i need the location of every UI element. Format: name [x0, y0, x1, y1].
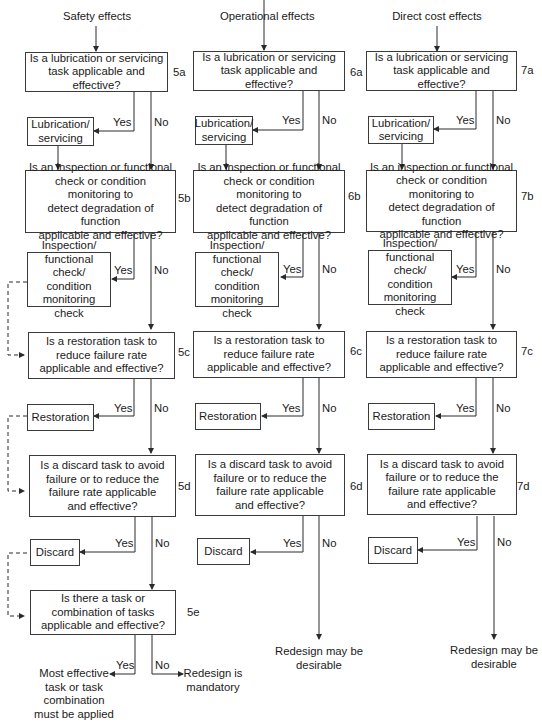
- action-lubrication-box: Lubrication/ servicing: [27, 117, 94, 146]
- question-code-7c: 7c: [521, 345, 533, 357]
- yes-label-7b: Yes: [456, 263, 474, 275]
- column-title-operational: Operational effects: [220, 10, 310, 24]
- no-label-7a: No: [496, 114, 510, 126]
- no-label-5d: No: [155, 537, 169, 549]
- yes-label-7c: Yes: [456, 402, 474, 414]
- question-5a-box: Is a lubrication or servicing task appli…: [25, 52, 168, 92]
- yes-label-6a: Yes: [282, 114, 300, 126]
- yes-label-5b: Yes: [114, 264, 132, 276]
- question-code-7d: 7d: [517, 480, 530, 492]
- outcome-redesign-desirable: Redesign may be desirable: [448, 644, 540, 671]
- action-lubrication-box: Lubrication/ servicing: [195, 116, 253, 145]
- column-title-safety: Safety effects: [60, 10, 134, 24]
- question-code-6a: 6a: [350, 66, 363, 78]
- no-label-6d: No: [322, 537, 336, 549]
- yes-label-7d: Yes: [457, 536, 475, 548]
- question-7d-box: Is a discard task to avoid failure or to…: [367, 454, 517, 515]
- question-code-7b: 7b: [521, 190, 534, 202]
- question-code-7a: 7a: [521, 64, 534, 76]
- yes-label-5d: Yes: [115, 537, 133, 549]
- no-label-6c: No: [322, 402, 336, 414]
- yes-label-5e: Yes: [116, 659, 134, 671]
- column-title-direct-cost: Direct cost effects: [390, 10, 484, 24]
- question-code-5b: 5b: [178, 192, 191, 204]
- question-5e-box: Is there a task or combination of tasks …: [30, 590, 176, 635]
- outcome-redesign-desirable: Redesign may be desirable: [274, 645, 364, 672]
- yes-label-6c: Yes: [282, 402, 300, 414]
- action-discard-box: Discard: [30, 539, 80, 566]
- yes-label-5a: Yes: [113, 116, 131, 128]
- action-restoration-box: Restoration: [27, 404, 94, 431]
- no-label-6a: No: [322, 114, 336, 126]
- action-discard-box: Discard: [368, 537, 418, 564]
- question-code-5a: 5a: [173, 66, 186, 78]
- no-label-7d: No: [497, 536, 511, 548]
- question-code-6d: 6d: [350, 480, 363, 492]
- no-label-7b: No: [496, 263, 510, 275]
- action-restoration-box: Restoration: [368, 403, 435, 430]
- outcome-redesign-mandatory: Redesign is mandatory: [183, 667, 243, 694]
- question-code-5e: 5e: [187, 606, 200, 618]
- yes-label-7a: Yes: [456, 114, 474, 126]
- question-6c-box: Is a restoration task to reduce failure …: [193, 331, 345, 378]
- question-7c-box: Is a restoration task to reduce failure …: [366, 331, 517, 378]
- yes-label-6b: Yes: [283, 263, 301, 275]
- question-code-5d: 5d: [178, 480, 191, 492]
- no-label-6b: No: [322, 263, 336, 275]
- action-lubrication-box: Lubrication/ servicing: [368, 116, 434, 144]
- no-label-5c: No: [154, 402, 168, 414]
- question-5d-box: Is a discard task to avoid failure or to…: [29, 455, 176, 517]
- no-label-7c: No: [496, 402, 510, 414]
- action-inspection-box: Inspection/ functional check/ condition …: [27, 252, 111, 307]
- action-inspection-box: Inspection/ functional check/ condition …: [195, 252, 279, 307]
- outcome-most-effective-task: Most effective task or task combination …: [34, 667, 114, 721]
- action-discard-box: Discard: [197, 538, 250, 565]
- no-label-5b: No: [154, 264, 168, 276]
- question-5c-box: Is a restoration task to reduce failure …: [28, 332, 175, 379]
- yes-label-6d: Yes: [283, 537, 301, 549]
- action-restoration-box: Restoration: [195, 403, 261, 430]
- question-5b-box: Is an inspection or functional check or …: [25, 170, 176, 233]
- question-code-6b: 6b: [348, 190, 361, 202]
- question-code-6c: 6c: [350, 345, 362, 357]
- action-inspection-box: Inspection/ functional check/ condition …: [368, 250, 452, 305]
- no-label-5a: No: [154, 116, 168, 128]
- question-6b-box: Is an inspection or functional check or …: [193, 170, 345, 233]
- yes-label-5c: Yes: [114, 402, 132, 414]
- question-6d-box: Is a discard task to avoid failure or to…: [195, 454, 345, 516]
- question-6a-box: Is a lubrication or servicing task appli…: [193, 51, 345, 91]
- question-7a-box: Is a lubrication or servicing task appli…: [366, 51, 517, 91]
- question-code-5c: 5c: [178, 346, 190, 358]
- question-7b-box: Is an inspection or functional check or …: [366, 170, 517, 232]
- no-label-5e: No: [155, 659, 169, 671]
